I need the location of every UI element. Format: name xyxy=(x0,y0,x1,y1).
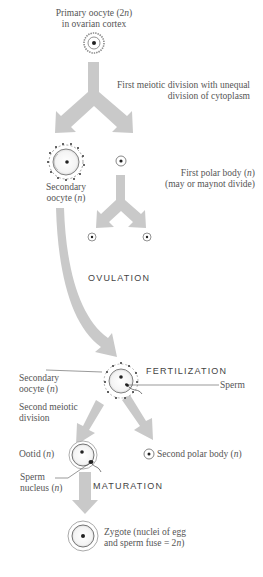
label-zygote: Zygote (nuclei of egg and sperm fuse = 2… xyxy=(104,527,186,549)
first-polar-body-line2: (may or maynot divide) xyxy=(140,179,255,190)
zygote-line2: and sperm fuse = 2n) xyxy=(104,538,186,549)
second-meiotic-line1: Second meiotic xyxy=(19,402,78,413)
nucleus xyxy=(92,41,96,45)
primary-oocyte-cell xyxy=(84,33,104,53)
arrow-polar-body-division xyxy=(96,175,146,228)
zygote-cell xyxy=(68,521,98,551)
label-ovulation: OVULATION xyxy=(88,273,150,284)
secondary-oocyte-2-line2: oocyte (n) xyxy=(19,384,59,395)
primary-oocyte-line1: Primary oocyte (2n) xyxy=(44,8,144,19)
label-first-polar-body: First polar body (n) (may or maynot divi… xyxy=(140,168,255,190)
secondary-oocyte-2-line1: Secondary xyxy=(19,373,59,384)
second-polar-body-cell xyxy=(144,449,154,459)
sperm-nucleus-line2: nucleus (n) xyxy=(20,483,62,494)
label-sperm: Sperm xyxy=(220,380,245,391)
secondary-oocyte-cell-2 xyxy=(104,362,142,399)
ootid-cell xyxy=(69,441,101,472)
label-secondary-oocyte-2: Secondary oocyte (n) xyxy=(19,373,59,395)
label-second-meiotic-division: Second meiotic division xyxy=(19,402,78,424)
secondary-oocyte-1-line1: Secondary xyxy=(40,182,92,193)
label-fertilization: FERTILIZATION xyxy=(146,366,227,377)
arrows xyxy=(55,62,153,514)
nucleus xyxy=(119,159,122,162)
first-polar-body-cell xyxy=(116,156,126,166)
first-meiotic-line2: division of cytoplasm xyxy=(100,91,250,102)
label-ootid: Ootid (n) xyxy=(19,449,54,460)
nucleus xyxy=(81,534,85,538)
nucleus xyxy=(119,375,123,379)
arrow-second-meiotic-right xyxy=(122,395,153,440)
label-maturation: MATURATION xyxy=(93,481,163,492)
leader-secondary-oocyte-2 xyxy=(46,370,102,372)
label-first-meiotic-division: First meiotic division with unequal divi… xyxy=(100,80,250,102)
label-sperm-nucleus: Sperm nucleus (n) xyxy=(20,472,62,494)
nucleus xyxy=(65,160,69,164)
nucleus xyxy=(80,450,84,454)
label-primary-oocyte: Primary oocyte (2n) in ovarian cortex xyxy=(44,8,144,30)
primary-oocyte-line2: in ovarian cortex xyxy=(44,19,144,30)
polar-body-daughter-1 xyxy=(88,233,96,241)
polar-body-daughter-2 xyxy=(143,233,151,241)
second-meiotic-line2: division xyxy=(19,413,78,424)
zygote-line1: Zygote (nuclei of egg xyxy=(104,527,186,538)
label-second-polar-body: Second polar body (n) xyxy=(157,449,242,460)
arrow-second-meiotic-left xyxy=(76,400,104,445)
sperm-nucleus-line1: Sperm xyxy=(20,472,62,483)
nucleus xyxy=(148,453,151,456)
secondary-oocyte-1-line2: oocyte (n) xyxy=(40,193,92,204)
first-polar-body-line1: First polar body (n) xyxy=(140,168,255,179)
first-meiotic-line1: First meiotic division with unequal xyxy=(100,80,250,91)
arrow-maturation xyxy=(72,472,98,514)
label-secondary-oocyte-1: Secondary oocyte (n) xyxy=(40,182,92,204)
secondary-oocyte-cell-1 xyxy=(47,143,85,181)
